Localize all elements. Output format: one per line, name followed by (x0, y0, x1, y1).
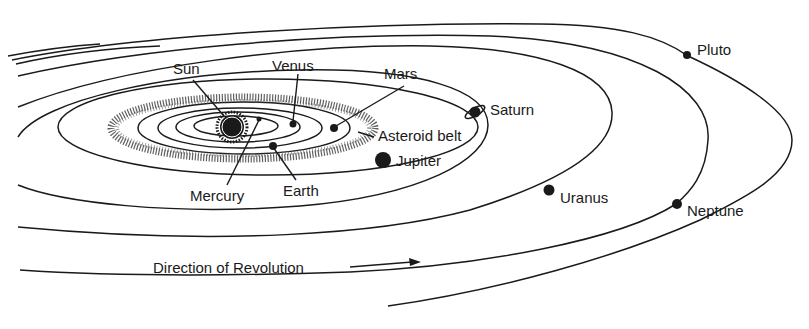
uranus-orbit (18, 46, 612, 237)
solar-system-diagram: Sun Venus Mars Saturn Asteroid belt Jupi… (0, 0, 809, 329)
label-mars: Mars (384, 66, 417, 81)
label-direction-of-revolution: Direction of Revolution (153, 260, 304, 275)
label-pluto: Pluto (697, 42, 731, 57)
earth-dot (269, 142, 277, 150)
venus-dot (290, 121, 297, 128)
arrow-head-icon (409, 258, 421, 266)
label-sun: Sun (173, 61, 200, 76)
neptune-dot (672, 199, 682, 209)
label-mercury: Mercury (190, 188, 244, 203)
jupiter-dot (375, 152, 391, 168)
label-asteroid-belt: Asteroid belt (378, 128, 461, 143)
direction-arrow-line (350, 262, 412, 267)
sun-body (220, 115, 244, 139)
neptune-orbit (18, 35, 708, 204)
label-jupiter: Jupiter (396, 153, 441, 168)
label-venus: Venus (272, 58, 314, 73)
mars-orbit (138, 102, 350, 154)
outer-orbit-fragment-1 (8, 44, 100, 56)
uranus-dot (544, 185, 555, 196)
label-earth: Earth (283, 183, 319, 198)
label-saturn: Saturn (490, 102, 534, 117)
label-neptune: Neptune (687, 203, 744, 218)
label-uranus: Uranus (560, 190, 608, 205)
pluto-dot (683, 51, 691, 59)
